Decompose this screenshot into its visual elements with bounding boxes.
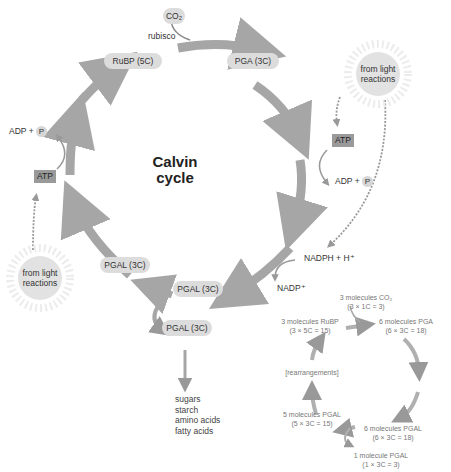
co2-input: CO₂ <box>163 8 185 24</box>
nadp-label: NADP⁺ <box>277 284 306 293</box>
pgal-out-molecule: PGAL (3C) <box>162 320 212 336</box>
summary-pgal5: 5 molecules PGAL (5 × 3C = 15) <box>274 410 350 428</box>
atp-right-arc <box>320 150 328 183</box>
sun-right-label: from light reactions <box>355 64 401 84</box>
cycle-title: Calvin cycle <box>145 154 205 186</box>
rubp-molecule: RuBP (5C) <box>104 53 162 69</box>
summary-rubp: 3 molecules RuBP (3 × 5C = 15) <box>272 317 348 335</box>
phosphate-right: P <box>362 176 373 187</box>
phosphate-left: P <box>36 126 47 137</box>
summary-pgal6: 6 molecules PGAL (6 × 3C = 18) <box>355 424 431 442</box>
summary-pga: 6 molecules PGA (6 × 3C = 18) <box>370 317 442 335</box>
atp-left-box: ATP <box>34 170 56 183</box>
summary-co2: 3 molecules CO₂ (3 × 1C = 3) <box>326 293 406 311</box>
sun-left-label: from light reactions <box>17 268 63 288</box>
adp-left-label: ADP + P <box>9 126 47 137</box>
summary-pgal1: 1 molecule PGAL (1 × 3C = 3) <box>346 451 416 469</box>
summary-rearrangements: [rearrangements] <box>282 368 342 377</box>
nadph-label: NADPH + H⁺ <box>304 254 355 263</box>
pgal-mid-molecule: PGAL (3C) <box>173 281 223 297</box>
atp-right-box: ATP <box>332 134 354 147</box>
pgal-branch-arrow <box>154 303 162 330</box>
adp-right-label: ADP + P <box>335 176 373 187</box>
pga-molecule: PGA (3C) <box>227 53 279 69</box>
pgal-left-molecule: PGAL (3C) <box>100 257 150 273</box>
products-list: sugars starch amino acids fatty acids <box>175 394 220 436</box>
atp-left-arc <box>57 137 65 169</box>
rubisco-label: rubisco <box>148 32 175 41</box>
